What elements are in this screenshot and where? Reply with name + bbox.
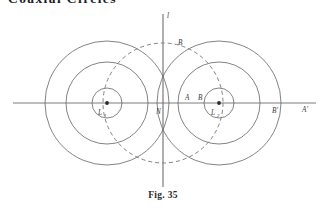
figure-caption: Fig. 35	[0, 190, 326, 200]
label-point-a-prime: A'	[301, 106, 308, 114]
left-center-dot	[105, 101, 109, 105]
label-left-center-subscript: 1	[104, 113, 107, 118]
label-origin: N	[155, 108, 162, 116]
figure-svg: l B N L 1 L 2 A B B' A'	[0, 0, 326, 212]
figure-page: Coaxial Circles l B N L 1	[0, 0, 326, 212]
right-center-dot	[217, 101, 221, 105]
label-left-center: L	[97, 109, 102, 117]
label-right-center-subscript: 2	[217, 113, 220, 118]
label-y-axis: l	[167, 12, 169, 20]
label-dashed-circle: B	[178, 39, 183, 47]
coaxial-circles-figure: l B N L 1 L 2 A B B' A'	[0, 0, 326, 212]
label-point-a: A	[184, 94, 190, 102]
label-right-center: L	[210, 109, 215, 117]
label-point-b-prime: B'	[272, 107, 278, 115]
label-point-b: B	[198, 94, 203, 102]
